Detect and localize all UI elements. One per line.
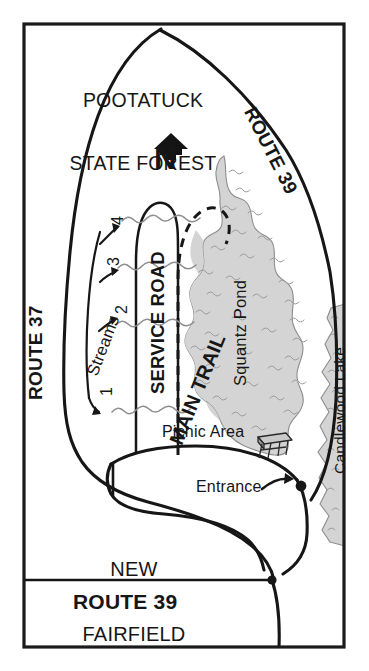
junction-dot-south [267,575,276,584]
stream-number-1: 1 [98,387,115,396]
label-service-road: SERVICE ROAD [148,251,168,394]
label-candlewood-lake: Candlewood Lake [332,347,349,474]
label-north: N [154,142,176,175]
new-fairfield-line-1: NEW [64,559,204,581]
label-entrance: Entrance [196,478,262,495]
entrance-dot-icon [296,481,307,492]
new-fairfield-line-2: FAIRFIELD [64,624,204,646]
pootatuck-line-1: POOTATUCK [58,90,228,111]
stream-number-3: 3 [105,257,122,266]
map-figure: POOTATUCK STATE FOREST N ROUTE 39 ROUTE … [0,0,369,671]
label-route-39-bottom: ROUTE 39 [73,591,177,614]
stream-number-4: 4 [109,216,126,225]
label-pootatuck-state-forest: POOTATUCK STATE FOREST [58,48,228,216]
pootatuck-line-2: STATE FOREST [58,153,228,174]
label-picnic-area: Picnic Area [162,423,244,440]
stream-number-2: 2 [113,305,130,314]
label-squantz-pond: Squantz Pond [232,280,250,386]
label-route-37: ROUTE 37 [26,305,47,400]
